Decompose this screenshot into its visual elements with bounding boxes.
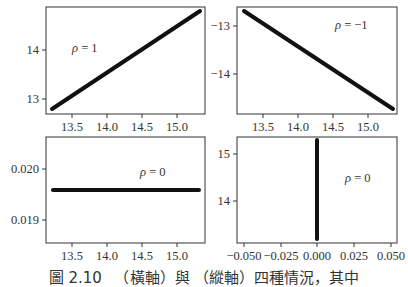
panel-top-left: 13.5 14.0 14.5 15.0 14 13 ρ = 1 [27,7,206,134]
x-axis: 13.5 14.0 14.5 15.0 [252,114,379,134]
x-tick-label: 0.000 [303,249,331,263]
y-tick-label: 0.019 [11,213,39,227]
y-tick-label: 14 [27,43,40,57]
y-tick-label: −13 [210,19,230,33]
y-axis: −13 −14 [210,19,237,81]
x-tick-label: 14.5 [322,120,344,134]
x-tick-label: 14.0 [287,120,309,134]
x-axis: 13.5 14.0 14.5 15.0 [61,243,188,263]
rho-annotation: ρ = −1 [334,18,368,32]
x-tick-label: 14.5 [131,120,153,134]
x-axis: −0.050 −0.025 0.000 0.025 0.050 [226,243,405,263]
y-tick-label: 15 [218,147,231,161]
y-axis: 14 13 [27,43,47,106]
panel-top-right: 13.5 14.0 14.5 15.0 −13 −14 ρ = −1 [210,7,397,134]
x-tick-label: 13.5 [61,249,83,263]
x-tick-label: 15.0 [166,120,188,134]
x-tick-label: −0.050 [226,249,261,263]
rho-annotation: ρ = 1 [71,41,98,55]
x-tick-label: 14.0 [96,249,118,263]
x-tick-label: 15.0 [166,249,188,263]
y-axis: 15 14 [218,147,238,208]
y-tick-label: 13 [27,92,40,106]
x-tick-label: 0.050 [377,249,405,263]
x-axis: 13.5 14.0 14.5 15.0 [61,114,188,134]
y-axis: 0.020 0.019 [11,162,46,227]
y-tick-label: −14 [210,67,230,81]
panel-bottom-right: −0.050 −0.025 0.000 0.025 0.050 15 14 ρ … [218,137,406,263]
x-tick-label: 15.0 [357,120,379,134]
figure-caption: 圖 2.10 （橫軸）與 （縱軸）四種情況，其中 [0,266,408,287]
panel-bottom-left: 13.5 14.0 14.5 15.0 0.020 0.019 ρ = 0 [11,137,205,263]
x-tick-label: −0.025 [263,249,298,263]
x-tick-label: 0.025 [340,249,368,263]
rho-annotation: ρ = 0 [139,165,166,179]
x-tick-label: 14.5 [131,249,153,263]
x-tick-label: 14.0 [96,120,118,134]
rho-annotation: ρ = 0 [344,171,371,185]
x-tick-label: 13.5 [252,120,274,134]
x-tick-label: 13.5 [61,120,83,134]
y-tick-label: 0.020 [11,162,39,176]
y-tick-label: 14 [218,194,231,208]
